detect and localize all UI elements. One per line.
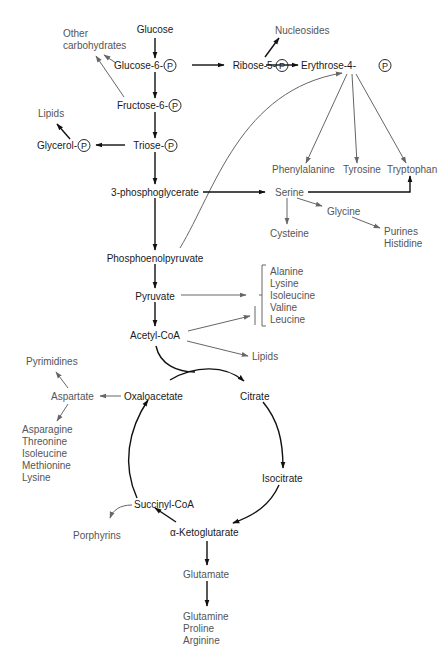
label-lipids-top: Lipids [38, 108, 64, 119]
svg-text:Glutamine: Glutamine [183, 611, 229, 622]
label-glucose: Glucose [137, 24, 174, 35]
aspartate-derived-amino-acids: Asparagine Threonine Isoleucine Methioni… [22, 424, 73, 483]
svg-text:P: P [382, 61, 388, 71]
label-phenylalanine: Phenylalanine [272, 164, 335, 175]
top-branch-arrows [57, 38, 298, 145]
label-glutamate: Glutamate [183, 569, 230, 580]
svg-text:Lysine: Lysine [22, 472, 51, 483]
svg-text:Valine: Valine [270, 302, 297, 313]
svg-text:P: P [172, 101, 178, 111]
label-3-phosphoglycerate: 3-phosphoglycerate [111, 187, 199, 198]
pyruvate-derived-amino-acids: Alanine Lysine Isoleucine Valine Leucine [270, 266, 315, 325]
label-erythrose-4-phosphate: Erythrose-4- P [301, 60, 391, 72]
label-glycine: Glycine [327, 206, 361, 217]
label-lipids-acetyl: Lipids [252, 351, 278, 362]
label-tyrosine: Tyrosine [343, 164, 381, 175]
svg-text:Glycerol-: Glycerol- [37, 140, 77, 151]
label-fructose-6-phosphate: Fructose-6- P [117, 100, 181, 112]
label-histidine: Histidine [384, 238, 423, 249]
label-isocitrate: Isocitrate [262, 473, 303, 484]
label-triose-phosphate: Triose- P [133, 140, 177, 152]
label-acetyl-coa: Acetyl-CoA [130, 330, 180, 341]
svg-text:Erythrose-4-: Erythrose-4- [301, 60, 356, 71]
tca-cycle-arrows [129, 346, 283, 523]
label-glycerol-phosphate: Glycerol- P [37, 140, 90, 152]
label-phosphoenolpyruvate: Phosphoenolpyruvate [107, 253, 204, 264]
label-nucleosides: Nucleosides [275, 25, 329, 36]
label-serine: Serine [275, 187, 304, 198]
label-other-carbohydrates-1: Other [63, 28, 89, 39]
svg-text:Threonine: Threonine [22, 436, 67, 447]
label-aspartate: Aspartate [51, 391, 94, 402]
svg-text:Asparagine: Asparagine [22, 424, 73, 435]
label-other-carbohydrates-2: carbohydrates [63, 40, 126, 51]
label-purines: Purines [384, 226, 418, 237]
aromatic-branch-arrows [180, 73, 406, 248]
label-glucose-6-phosphate: Glucose-6- P [114, 60, 176, 72]
svg-text:Proline: Proline [183, 623, 215, 634]
svg-text:P: P [81, 141, 87, 151]
label-pyruvate: Pyruvate [135, 291, 175, 302]
label-tryptophan: Tryptophan [387, 164, 437, 175]
svg-text:Ribose-5-: Ribose-5- [233, 60, 276, 71]
svg-text:Alanine: Alanine [270, 266, 304, 277]
svg-text:Arginine: Arginine [183, 635, 220, 646]
label-porphyrins: Porphyrins [73, 530, 121, 541]
svg-text:Lysine: Lysine [270, 278, 299, 289]
svg-text:Glucose-6-: Glucose-6- [114, 60, 163, 71]
label-citrate: Citrate [240, 391, 270, 402]
svg-text:Isoleucine: Isoleucine [270, 290, 315, 301]
glutamate-derived-amino-acids: Glutamine Proline Arginine [183, 611, 229, 646]
svg-text:Methionine: Methionine [22, 460, 71, 471]
svg-text:P: P [167, 61, 173, 71]
svg-text:Isoleucine: Isoleucine [22, 448, 67, 459]
label-alpha-ketoglutarate: α-Ketoglutarate [170, 527, 239, 538]
pyruvate-branch-arrows [181, 265, 266, 356]
svg-text:Triose-: Triose- [133, 140, 164, 151]
label-ribose-5-phosphate: Ribose-5- P [233, 60, 288, 72]
label-succinyl-coa: Succinyl-CoA [134, 499, 194, 510]
label-cysteine: Cysteine [270, 228, 309, 239]
svg-text:Fructose-6-: Fructose-6- [117, 100, 168, 111]
label-pyrimidines: Pyrimidines [26, 356, 78, 367]
svg-text:Leucine: Leucine [270, 314, 305, 325]
serine-branch-arrows [203, 176, 410, 228]
svg-text:P: P [168, 141, 174, 151]
label-oxaloacetate: Oxaloacetate [124, 391, 183, 402]
metabolic-pathway-diagram: Glucose Glucose-6- P Fructose-6- P Trios… [0, 0, 444, 657]
svg-text:P: P [279, 61, 285, 71]
